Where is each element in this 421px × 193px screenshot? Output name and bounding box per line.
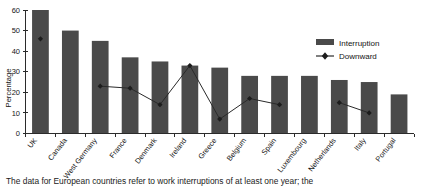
- x-tick-label: Denmark: [133, 136, 159, 165]
- y-tick-label: 40: [12, 47, 20, 56]
- chart-caption: The data for European countries refer to…: [6, 176, 418, 186]
- x-tick-label: Netherlands: [306, 136, 338, 173]
- bar: [391, 94, 408, 133]
- x-tick-label: UK: [26, 136, 39, 150]
- bar: [122, 57, 139, 133]
- bar: [301, 76, 318, 134]
- legend-label-interruption: Interruption: [339, 39, 379, 48]
- chart-container: Percentage 0102030405060 UKCanadaWest Ge…: [0, 0, 421, 193]
- x-tick-label: Luxembourg: [276, 136, 308, 174]
- x-tick-label: Ireland: [167, 136, 188, 159]
- x-tick-label: Italy: [352, 136, 368, 152]
- y-tick-label: 20: [12, 88, 20, 97]
- bar-line-chart: Percentage 0102030405060 UKCanadaWest Ge…: [0, 0, 421, 193]
- bar: [241, 76, 258, 134]
- bar-series-interruption: [32, 10, 407, 134]
- x-tick-label: France: [107, 136, 128, 160]
- bar: [331, 80, 348, 134]
- x-axis: [26, 134, 415, 138]
- x-tick-label: Belgium: [225, 136, 249, 163]
- y-tick-label: 0: [16, 129, 20, 138]
- x-tick-label: Portugal: [374, 136, 398, 164]
- bar: [211, 68, 228, 134]
- y-tick-label: 10: [12, 109, 20, 118]
- bar: [32, 10, 49, 134]
- chart-legend: Interruption Downward: [316, 39, 379, 62]
- x-tick-label: Canada: [46, 135, 70, 162]
- bar: [62, 31, 79, 134]
- bar: [361, 82, 378, 133]
- legend-marker-downward: [322, 52, 328, 60]
- legend-swatch-interruption: [316, 39, 334, 45]
- line-series-downward: [38, 36, 372, 121]
- legend-label-downward: Downward: [339, 52, 377, 61]
- y-tick-label: 60: [12, 6, 20, 15]
- x-axis-category-labels: UKCanadaWest GermanyFranceDenmarkIreland…: [26, 135, 398, 180]
- x-tick-label: Spain: [259, 136, 278, 156]
- x-tick-label: Greece: [196, 136, 218, 161]
- y-tick-label: 30: [12, 67, 20, 76]
- y-tick-label: 50: [12, 26, 20, 35]
